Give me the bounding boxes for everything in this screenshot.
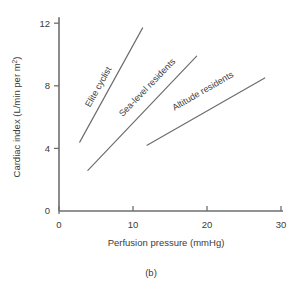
series-labels-group: Elite cyclistSea-level residentsAltitude… [83,56,236,118]
x-tick-label: 10 [128,219,139,230]
series-label: Altitude residents [170,69,235,112]
chart-canvas: 0102030 04812 Elite cyclistSea-level res… [0,0,302,285]
x-axis-ticks [59,206,281,214]
y-tick-label: 4 [45,143,50,154]
y-axis-title-tail: ) [11,57,22,60]
y-axis-tick-labels: 04812 [39,18,50,217]
y-axis-title-main: Cardiac index (L/min per m [11,63,22,177]
y-axis-title: Cardiac index (L/min per m2) [11,57,22,178]
series-line [80,28,143,142]
x-axis-title: Perfusion pressure (mmHg) [108,237,225,248]
x-tick-label: 0 [56,219,61,230]
x-tick-label: 20 [202,219,213,230]
series-lines-group [80,28,265,170]
series-label: Sea-level residents [117,56,178,118]
y-tick-label: 0 [45,205,50,216]
figure-container: 0102030 04812 Elite cyclistSea-level res… [0,0,302,285]
figure-caption: (b) [145,267,157,278]
x-axis-tick-labels: 0102030 [56,219,286,230]
x-tick-label: 30 [276,219,287,230]
series-label: Elite cyclist [83,64,114,108]
y-tick-label: 12 [39,18,50,29]
y-tick-label: 8 [45,80,50,91]
